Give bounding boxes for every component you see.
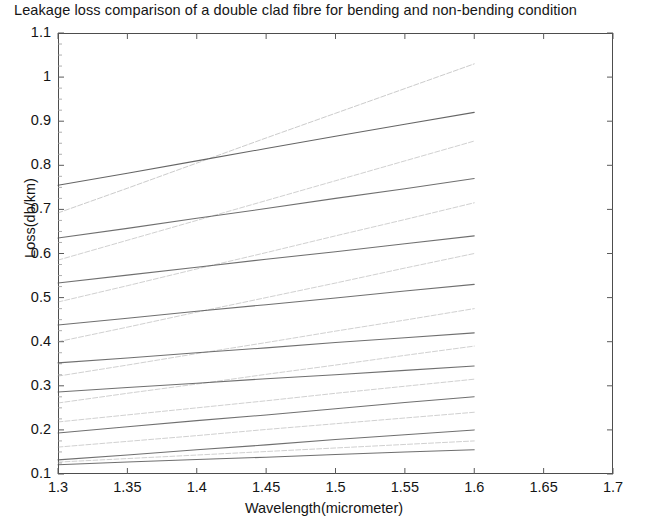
x-tick-label: 1.5 [306,479,366,495]
series-line [58,112,474,185]
figure: Leakage loss comparison of a double clad… [0,0,648,530]
x-tick-label: 1.3 [28,479,88,495]
x-tick-label: 1.55 [375,479,435,495]
y-tick-label: 0.9 [5,112,51,128]
series-line [58,346,474,403]
series-line [58,141,474,260]
y-tick-label: 0.4 [5,333,51,349]
series-line [58,366,474,392]
y-axis-label: Loss(db/km) [22,128,38,308]
series-line [58,450,474,465]
y-tick-label: 0.2 [5,421,51,437]
y-tick-label: 1 [5,68,51,84]
chart-canvas [0,0,648,530]
y-tick-label: 0.3 [5,377,51,393]
x-tick-label: 1.45 [236,479,296,495]
x-tick-label: 1.65 [514,479,574,495]
series-line [58,203,474,302]
axis-ticks [58,33,613,474]
series-line [58,254,474,342]
series-line [58,430,474,460]
y-tick-label: 1.1 [5,24,51,40]
x-tick-label: 1.6 [444,479,504,495]
series-line [58,397,474,433]
series-line [58,412,474,447]
data-series-group [58,64,474,465]
series-line [58,333,474,363]
x-axis-label: Wavelength(micrometer) [0,500,648,516]
series-line [58,179,474,239]
series-line [58,236,474,283]
x-tick-label: 1.4 [167,479,227,495]
series-line [58,64,474,213]
x-tick-label: 1.35 [97,479,157,495]
x-tick-label: 1.7 [583,479,643,495]
series-line [58,379,474,422]
